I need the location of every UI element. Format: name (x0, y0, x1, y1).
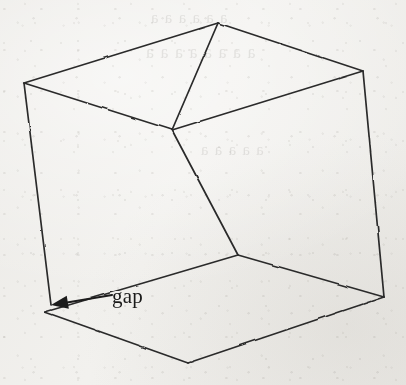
gap-label: gap (112, 286, 143, 307)
cube-edge-vertical-left (24, 83, 51, 305)
gap-arrow-head (51, 296, 69, 309)
wireframe-cube-drawing (0, 0, 406, 385)
cube-edge-floor-front-left (45, 312, 188, 363)
cube-edge-vertical-back-center (172, 23, 218, 130)
cube-edge-vertical-center (172, 130, 238, 255)
cube-edge-vertical-right (363, 71, 384, 297)
cube-edge-top-face-back-right (218, 23, 363, 71)
figure-root: a a a a a aa a a a a a a aa a a a a gap (0, 0, 406, 385)
cube-edge-top-face-front-right (172, 71, 363, 130)
cube-edge-floor-back-right (238, 255, 384, 297)
cube-edge-top-face-back-left (24, 23, 218, 83)
cube-edge-floor-front-right (188, 297, 384, 363)
cube-edge-top-face-front-left (24, 83, 172, 130)
gap-arrow-shaft (64, 295, 112, 303)
